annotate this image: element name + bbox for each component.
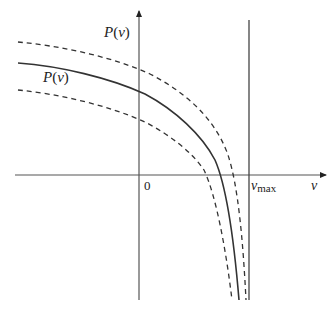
vmax-label: vmax [251, 178, 277, 194]
curve-label: P(v) [42, 69, 69, 86]
diagram-canvas: P(v) P(v) 0 vmax v [0, 0, 332, 311]
solid-curve [18, 63, 239, 300]
x-axis-label: v [311, 178, 318, 193]
lower-dashed-curve [18, 90, 232, 300]
y-axis-label: P(v) [103, 24, 130, 41]
origin-label: 0 [144, 178, 151, 193]
